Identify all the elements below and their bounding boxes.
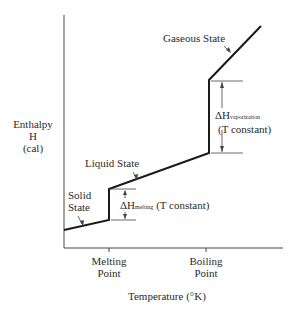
gaseous-state-label: Gaseous State: [163, 32, 225, 44]
enthalpy-diagram: [0, 0, 303, 314]
boiling-point-label: Boiling Point: [181, 255, 231, 279]
solid-state-label: Solid State: [68, 189, 91, 213]
liquid-state-label: Liquid State: [85, 157, 139, 169]
x-axis-label: Temperature (°K): [128, 290, 206, 302]
delta-h-melting-label: ΔHmelting (T constant): [120, 199, 209, 213]
y-axis-label: Enthalpy H (cal): [8, 118, 58, 154]
delta-h-vaporization-label: ΔHvaporization (T constant): [215, 109, 271, 135]
melting-point-label: Melting Point: [84, 255, 134, 279]
